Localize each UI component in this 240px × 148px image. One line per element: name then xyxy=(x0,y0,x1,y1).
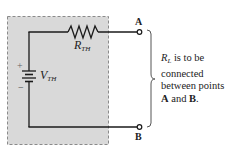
terminal-b-label: B xyxy=(135,131,142,142)
terminal-b-icon xyxy=(137,125,142,130)
load-connection-note: RL is to be connected between points A a… xyxy=(161,52,224,105)
source-label: VTH xyxy=(40,68,56,83)
terminal-a-label: A xyxy=(135,16,142,27)
resistor-label: RTH xyxy=(74,38,90,53)
note-line-3: between points xyxy=(161,80,224,93)
thevenin-enclosure-box xyxy=(8,17,109,145)
curly-brace-icon xyxy=(147,30,155,127)
source-minus-sign: − xyxy=(18,82,24,93)
note-line-1: RL is to be xyxy=(161,52,224,68)
note-line-2: connected xyxy=(161,68,224,81)
terminal-a-icon xyxy=(137,30,142,35)
note-line-4: A and B. xyxy=(161,93,224,106)
source-plus-sign: + xyxy=(17,60,23,71)
